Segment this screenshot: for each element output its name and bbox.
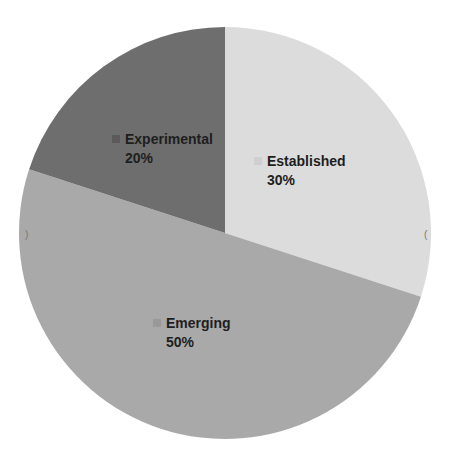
slice-label-emerging: Emerging 50% — [153, 314, 231, 352]
left-edge-mark: ) — [25, 229, 28, 240]
experimental-swatch-icon — [112, 135, 120, 143]
pie-slices — [19, 27, 431, 439]
emerging-percent: 50% — [153, 333, 231, 352]
experimental-percent: 20% — [112, 149, 213, 168]
emerging-swatch-icon — [153, 319, 161, 327]
right-edge-mark: ( — [424, 229, 427, 240]
established-percent: 30% — [254, 171, 346, 190]
slice-label-experimental: Experimental 20% — [112, 130, 213, 168]
pie-chart — [0, 0, 450, 462]
slice-label-established: Established 30% — [254, 152, 346, 190]
established-swatch-icon — [254, 157, 262, 165]
